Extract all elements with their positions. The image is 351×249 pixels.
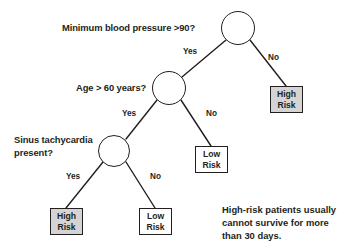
leaf-high-risk-bottom-line2: Risk [57, 222, 75, 233]
node-root-circle[interactable] [221, 11, 255, 45]
edge-age-to-low-middle [181, 100, 211, 146]
edge-label-age-no: No [206, 109, 217, 118]
leaf-high-risk-right-line2: Risk [277, 100, 295, 111]
edge-label-age-yes: Yes [122, 109, 136, 118]
node-age-circle[interactable] [152, 71, 186, 105]
leaf-high-risk-bottom-line1: High [57, 211, 76, 222]
question-sinus: Sinus tachycardia present? [14, 134, 93, 159]
decision-tree-diagram: Minimum blood pressure >90? Age > 60 yea… [0, 0, 351, 249]
leaf-low-risk-middle-line1: Low [203, 149, 220, 160]
leaf-high-risk-bottom[interactable]: High Risk [50, 208, 83, 235]
node-sinus-circle[interactable] [98, 135, 130, 167]
leaf-high-risk-right-line1: High [277, 89, 296, 100]
leaf-low-risk-middle[interactable]: Low Risk [195, 146, 228, 173]
question-sinus-line1: Sinus tachycardia [14, 134, 93, 147]
edge-root-to-high-right [250, 40, 286, 86]
leaf-low-risk-bottom-line2: Risk [146, 222, 164, 233]
question-root: Minimum blood pressure >90? [62, 22, 195, 35]
annotation-note: High-risk patients usually cannot surviv… [222, 203, 336, 242]
edge-label-root-no: No [268, 53, 279, 62]
question-sinus-line2: present? [14, 147, 93, 160]
edge-label-root-yes: Yes [183, 47, 197, 56]
edge-root-to-age [182, 40, 226, 77]
leaf-high-risk-right[interactable]: High Risk [270, 86, 303, 113]
leaf-low-risk-middle-line2: Risk [202, 160, 220, 171]
edge-sinus-to-high-bottom [66, 162, 103, 208]
leaf-low-risk-bottom[interactable]: Low Risk [139, 208, 172, 235]
annotation-line2: cannot survive for more [222, 216, 336, 229]
annotation-line3: than 30 days. [222, 229, 336, 242]
question-age: Age > 60 years? [76, 82, 146, 95]
leaf-low-risk-bottom-line1: Low [147, 211, 164, 222]
annotation-line1: High-risk patients usually [222, 203, 336, 216]
edge-sinus-to-low-bottom [126, 162, 155, 208]
edge-label-sinus-no: No [150, 172, 161, 181]
edge-label-sinus-yes: Yes [66, 172, 80, 181]
edge-age-to-sinus [126, 100, 157, 139]
